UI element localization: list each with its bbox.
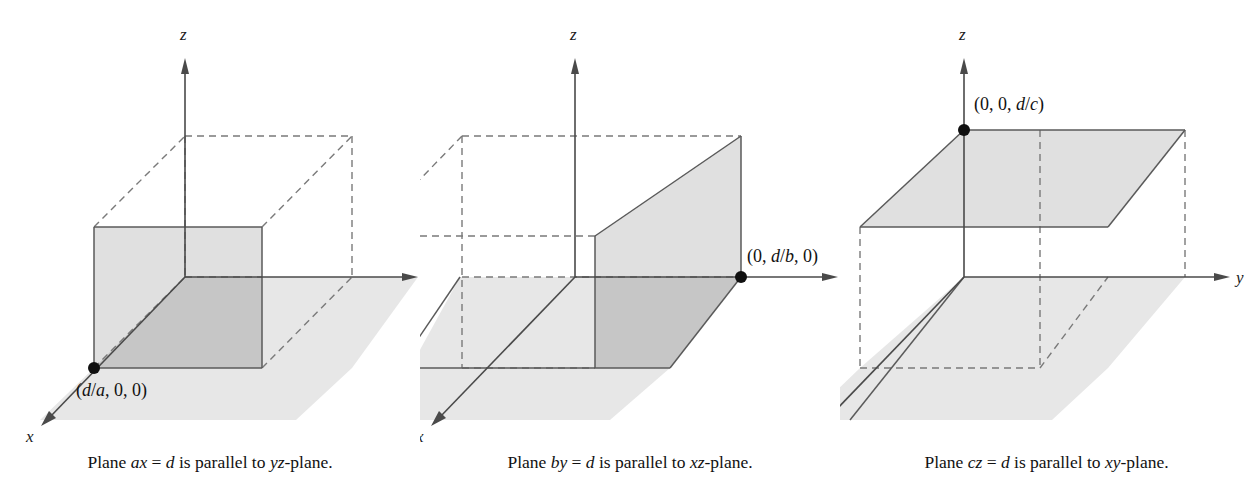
caption-plane: yz xyxy=(270,452,285,472)
panel-cz-diagram: z y x (0, 0, d/c) xyxy=(840,0,1253,450)
caption-prefix: Plane xyxy=(507,452,550,472)
pt-den: a xyxy=(96,380,105,400)
intercept-point-dot xyxy=(88,362,100,374)
z-axis-label: z xyxy=(569,25,577,44)
panel-plane-cz: z y x (0, 0, d/c) Plane cz = d is parall… xyxy=(840,0,1253,495)
panel-by-diagram: z y x (0, d/b, 0) xyxy=(420,0,840,450)
panel-plane-ax: z y x (d/a, 0, 0) Plane ax = d is parall… xyxy=(0,0,420,495)
caption-equation-lhs: by xyxy=(551,452,568,472)
intercept-point-label: (0, 0, d/c) xyxy=(974,94,1044,115)
xy-plane-fill-front xyxy=(420,368,670,420)
caption-plane: xz xyxy=(690,452,705,472)
caption-equals: = xyxy=(147,452,166,472)
xy-plane-fill xyxy=(860,277,1185,368)
pt-rest: , 0) xyxy=(794,246,818,267)
plane-overlap-dark xyxy=(595,277,741,368)
panel-cz-caption: Plane cz = d is parallel to xy-plane. xyxy=(840,452,1253,473)
pt-rest: ) xyxy=(1038,94,1044,115)
panel-plane-by: z y x (0, d/b, 0) Plane by = d is parall… xyxy=(420,0,840,495)
pt-open: (0, 0, xyxy=(974,94,1016,115)
caption-equals: = xyxy=(567,452,586,472)
z-axis-label: z xyxy=(179,25,187,44)
y-axis-label: y xyxy=(1234,268,1244,287)
panel-by-caption: Plane by = d is parallel to xz-plane. xyxy=(420,452,840,473)
caption-middle: is parallel to xyxy=(175,452,270,472)
pt-rest: , 0, 0) xyxy=(105,380,147,401)
caption-middle: is parallel to xyxy=(595,452,690,472)
caption-prefix: Plane xyxy=(87,452,130,472)
caption-middle: is parallel to xyxy=(1010,452,1105,472)
x-axis-label: x xyxy=(420,427,424,446)
pt-den: c xyxy=(1030,94,1038,114)
caption-suffix: -plane. xyxy=(1120,452,1168,472)
z-axis xyxy=(571,58,579,277)
panel-ax-diagram: z y x (d/a, 0, 0) xyxy=(0,0,420,450)
x-axis-label: x xyxy=(25,427,34,446)
caption-prefix: Plane xyxy=(924,452,967,472)
caption-equation-lhs: cz xyxy=(968,452,983,472)
figure-root: z y x (d/a, 0, 0) Plane ax = d is parall… xyxy=(0,0,1253,495)
xy-plane-fill-front xyxy=(840,368,1108,420)
panel-ax-caption: Plane ax = d is parallel to yz-plane. xyxy=(0,452,420,473)
caption-equation-lhs: ax xyxy=(131,452,148,472)
caption-equation-rhs: d xyxy=(166,452,175,472)
caption-suffix: -plane. xyxy=(704,452,752,472)
intercept-point-dot xyxy=(735,271,747,283)
caption-suffix: -plane. xyxy=(284,452,332,472)
caption-equals: = xyxy=(982,452,1001,472)
intercept-point-label: (d/a, 0, 0) xyxy=(76,380,147,401)
z-axis-label: z xyxy=(958,25,966,44)
intercept-point-label: (0, d/b, 0) xyxy=(747,246,818,267)
pt-open: (0, xyxy=(747,246,771,267)
intercept-point-dot xyxy=(958,124,970,136)
caption-equation-rhs: d xyxy=(586,452,595,472)
plane-cz-fill xyxy=(860,130,1185,227)
pt-den: b xyxy=(785,246,794,266)
caption-plane: xy xyxy=(1105,452,1121,472)
caption-equation-rhs: d xyxy=(1001,452,1010,472)
